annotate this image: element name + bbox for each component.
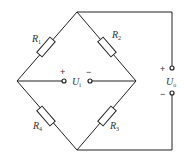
output-minus-sign: − <box>160 89 165 99</box>
input-terminal-minus <box>88 79 92 83</box>
input-minus-sign: − <box>86 67 91 77</box>
label-r4: R4 <box>32 120 42 132</box>
label-r3: R3 <box>109 120 119 132</box>
output-terminal-minus <box>170 91 174 95</box>
input-plus-sign: + <box>60 67 65 77</box>
output-plus-sign: + <box>160 64 165 74</box>
resistor-r2 <box>98 37 116 57</box>
input-voltage-label: Ui <box>72 76 81 88</box>
label-r1: R1 <box>31 33 41 45</box>
bridge-circuit: R1 R2 R3 R4 + − Ui + − Uo <box>0 0 184 166</box>
label-r2: R2 <box>111 29 121 41</box>
output-voltage-label: Uo <box>166 76 176 88</box>
output-terminal-plus <box>170 66 174 70</box>
input-terminal-plus <box>62 79 66 83</box>
resistor-r4 <box>37 106 55 126</box>
